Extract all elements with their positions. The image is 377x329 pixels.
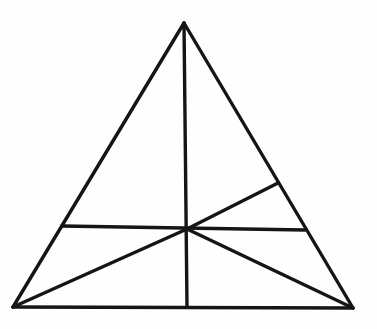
- cevian-bottomleft-to-center: [13, 229, 187, 307]
- triangle-edge-bottom: [13, 307, 353, 308]
- vertical-median: [184, 23, 187, 307]
- triangle-diagram: [0, 0, 377, 329]
- diagram-svg: [0, 0, 377, 329]
- triangle-edge-left: [13, 23, 184, 307]
- cevian-center-to-right-side: [187, 183, 278, 229]
- triangle-edge-right: [184, 23, 353, 308]
